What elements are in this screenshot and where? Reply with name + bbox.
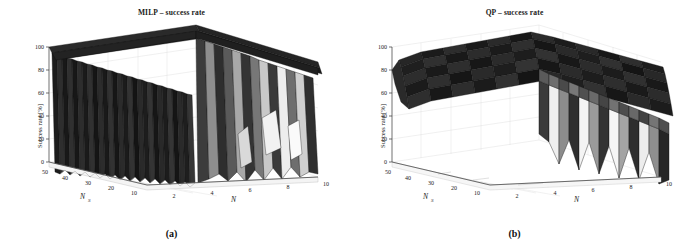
svg-text:100: 100 (378, 44, 387, 50)
svg-text:0: 0 (41, 159, 44, 165)
svg-text:60: 60 (38, 90, 44, 96)
panel-b-plot: 0 20 40 60 80 100 (343, 22, 686, 202)
svg-text:S: S (431, 198, 434, 202)
panel-a-ns-axis-label: N S (79, 192, 91, 202)
svg-text:30: 30 (428, 180, 434, 186)
svg-text:R: R (238, 201, 242, 202)
panel-a-z-ticks (46, 47, 49, 162)
panel-b-svg: 0 20 40 60 80 100 (343, 22, 686, 202)
panel-a: MILP – success rate Success rate [%] (0, 0, 343, 245)
svg-text:N: N (230, 195, 237, 202)
svg-text:60: 60 (381, 90, 387, 96)
panel-b-ns-axis-label: N S (422, 192, 434, 202)
panel-a-plot: 0 20 40 60 80 100 (0, 22, 343, 202)
svg-text:20: 20 (108, 185, 114, 191)
svg-text:2: 2 (173, 193, 176, 199)
panel-b-nr-axis-label: N R (573, 195, 585, 202)
figure-container: MILP – success rate Success rate [%] (0, 0, 686, 245)
panel-b-surface (392, 32, 673, 190)
svg-text:S: S (88, 198, 91, 202)
svg-text:10: 10 (666, 181, 672, 187)
svg-text:0: 0 (384, 159, 387, 165)
svg-text:10: 10 (131, 190, 137, 196)
panel-b-z-tick-labels: 0 20 40 60 80 100 (378, 44, 387, 165)
panel-b: QP – success rate Success rate [%] (343, 0, 686, 245)
svg-text:N: N (79, 192, 86, 201)
svg-text:80: 80 (381, 67, 387, 73)
svg-text:8: 8 (287, 184, 290, 190)
panel-a-nr-axis-label: N R (230, 195, 242, 202)
svg-text:20: 20 (38, 136, 44, 142)
svg-text:4: 4 (554, 190, 557, 196)
panel-a-caption: (a) (0, 228, 343, 239)
svg-text:100: 100 (35, 44, 44, 50)
panel-b-z-ticks (389, 47, 392, 162)
svg-text:4: 4 (211, 190, 214, 196)
svg-text:20: 20 (381, 136, 387, 142)
panel-a-title: MILP – success rate (0, 8, 343, 17)
svg-text:6: 6 (592, 187, 595, 193)
svg-text:N: N (573, 195, 580, 202)
panel-a-svg: 0 20 40 60 80 100 (0, 22, 343, 202)
svg-text:10: 10 (323, 181, 329, 187)
svg-text:40: 40 (62, 175, 68, 181)
svg-text:50: 50 (385, 169, 391, 175)
svg-text:40: 40 (38, 113, 44, 119)
svg-text:R: R (581, 201, 585, 202)
svg-text:8: 8 (630, 184, 633, 190)
svg-text:N: N (422, 192, 429, 201)
svg-text:40: 40 (381, 113, 387, 119)
panel-a-z-tick-labels: 0 20 40 60 80 100 (35, 44, 44, 165)
panel-b-ns-axis (392, 162, 490, 185)
panel-b-title: QP – success rate (343, 8, 686, 17)
svg-text:80: 80 (38, 67, 44, 73)
svg-text:2: 2 (516, 193, 519, 199)
svg-text:30: 30 (85, 180, 91, 186)
panel-b-caption: (b) (343, 228, 686, 239)
svg-text:20: 20 (451, 185, 457, 191)
svg-text:6: 6 (249, 187, 252, 193)
svg-text:50: 50 (42, 169, 48, 175)
svg-text:10: 10 (474, 190, 480, 196)
svg-text:40: 40 (405, 175, 411, 181)
